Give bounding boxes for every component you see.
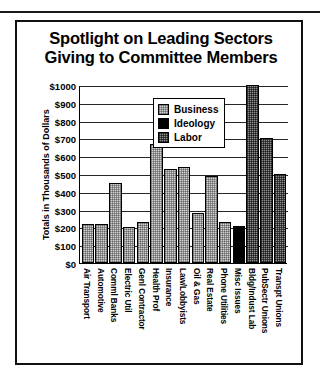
bar-slot — [246, 85, 260, 263]
y-tick-100: $100 — [55, 241, 76, 252]
bar-slot — [232, 85, 246, 263]
legend-label: Labor — [174, 132, 202, 143]
y-tick-700: $700 — [55, 134, 76, 145]
x-label-slot: Comml Banks — [107, 266, 121, 358]
bar-transpt-unions[interactable] — [274, 174, 286, 263]
legend-label: Ideology — [174, 118, 215, 129]
chart-title: Spotlight on Leading Sectors Giving to C… — [17, 29, 305, 67]
x-tick-automotive: Automotive — [96, 268, 106, 313]
x-label-slot: Automotive — [94, 266, 108, 358]
x-tick-health-prof: Health Prof — [151, 268, 161, 311]
y-tick-900: $900 — [55, 98, 76, 109]
bar-slot — [260, 85, 274, 263]
bar-misc-issues[interactable] — [233, 226, 245, 263]
bar-slot — [122, 85, 136, 263]
chart-figure: Spotlight on Leading Sectors Giving to C… — [15, 20, 303, 365]
x-tick-law-lobbyists: Law/Lobbyists — [178, 268, 188, 324]
chart-title-line-1: Spotlight on Leading Sectors — [17, 29, 305, 48]
bar-slot — [95, 85, 109, 263]
bar-insurance[interactable] — [164, 169, 176, 263]
chart-title-line-2: Giving to Committee Members — [17, 48, 305, 67]
y-tick-400: $400 — [55, 187, 76, 198]
x-label-slot: Law/Lobbyists — [176, 266, 190, 358]
x-label-slot: Genl Contractor — [135, 266, 149, 358]
bar-slot — [81, 85, 95, 263]
y-tick-800: $800 — [55, 116, 76, 127]
bar-electric-util[interactable] — [123, 227, 135, 263]
x-label-slot: Transpt Unions — [272, 266, 286, 358]
x-label-slot: Phone Utilities — [217, 266, 231, 358]
legend-item-business[interactable]: Business — [158, 102, 218, 116]
bar-health-prof[interactable] — [150, 144, 162, 263]
x-label-slot: Health Prof — [149, 266, 163, 358]
bar-bldg-indust-lab[interactable] — [246, 85, 258, 263]
page-top-rule — [0, 11, 320, 13]
x-tick-electric-util: Electric Util — [123, 268, 133, 312]
x-tick-pubsectr-unions: PubSectr Unions — [260, 268, 270, 333]
x-axis-tick-labels: Air TransportAutomotiveComml BanksElectr… — [79, 266, 287, 358]
ideology-solid-black-icon — [158, 118, 169, 129]
bar-air-transport[interactable] — [82, 224, 94, 263]
x-tick-comml-banks: Comml Banks — [109, 268, 119, 322]
x-label-slot: Air Transport — [80, 266, 94, 358]
x-tick-oil-gas: Oil & Gas — [192, 268, 202, 304]
x-label-slot: PubSectr Unions — [259, 266, 273, 358]
x-label-slot: Electric Util — [121, 266, 135, 358]
business-light-gray-checkered-icon — [158, 104, 169, 115]
bar-real-estate[interactable] — [205, 176, 217, 263]
x-tick-bldg-indust-lab: Bldg/Indust Lab — [247, 268, 257, 329]
y-axis-title: Totals in Thousands of Dollars — [39, 86, 53, 264]
y-tick-600: $600 — [55, 152, 76, 163]
bar-slot — [108, 85, 122, 263]
bar-pubsectr-unions[interactable] — [260, 138, 272, 263]
bar-oil-gas[interactable] — [192, 213, 204, 263]
bar-automotive[interactable] — [95, 224, 107, 263]
x-tick-genl-contractor: Genl Contractor — [137, 268, 147, 330]
x-label-slot: Real Estate — [204, 266, 218, 358]
bar-slot — [136, 85, 150, 263]
x-label-slot: Oil & Gas — [190, 266, 204, 358]
x-tick-air-transport: Air Transport — [82, 268, 92, 319]
y-tick-200: $200 — [55, 223, 76, 234]
legend-item-labor[interactable]: Labor — [158, 130, 218, 144]
bar-law-lobbyists[interactable] — [178, 167, 190, 263]
bar-phone-utilities[interactable] — [219, 222, 231, 263]
x-label-slot: Insurance — [162, 266, 176, 358]
legend-label: Business — [174, 104, 218, 115]
y-tick-500: $500 — [55, 170, 76, 181]
x-label-slot: Bldg/Indust Lab — [245, 266, 259, 358]
bar-comml-banks[interactable] — [109, 183, 121, 263]
x-tick-insurance: Insurance — [164, 268, 174, 306]
bar-genl-contractor[interactable] — [137, 222, 149, 263]
x-tick-transpt-unions: Transpt Unions — [274, 268, 284, 327]
x-tick-phone-utilities: Phone Utilities — [219, 268, 229, 324]
x-label-slot: Misc Issues — [231, 266, 245, 358]
y-tick-1000: $1000 — [50, 81, 76, 92]
chart-legend: BusinessIdeologyLabor — [153, 98, 225, 148]
x-tick-real-estate: Real Estate — [205, 268, 215, 312]
y-tick-300: $300 — [55, 205, 76, 216]
x-tick-misc-issues: Misc Issues — [233, 268, 243, 313]
y-tick-0: $0 — [65, 259, 76, 270]
labor-dark-gray-checkered-icon — [158, 132, 169, 143]
bar-slot — [273, 85, 287, 263]
legend-item-ideology[interactable]: Ideology — [158, 116, 218, 130]
